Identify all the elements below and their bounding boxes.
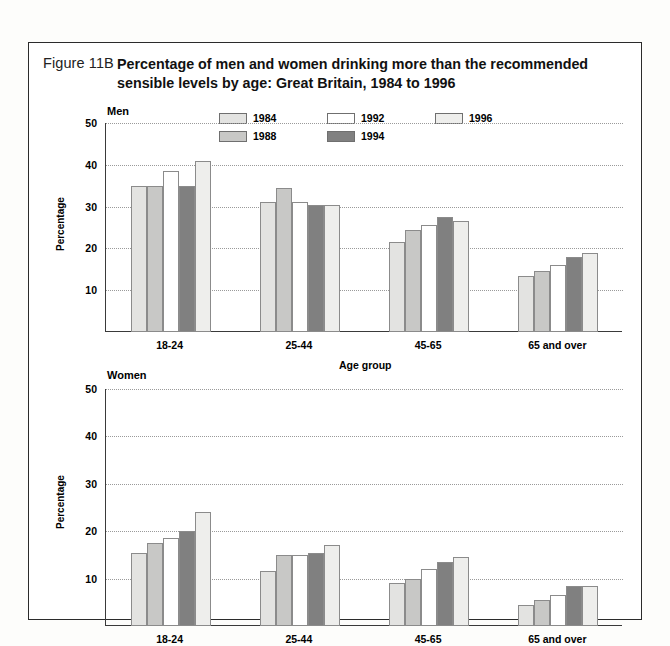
gridline-40 [106, 165, 623, 166]
bar [147, 186, 163, 332]
bar [324, 545, 340, 626]
bar [566, 586, 582, 626]
x-tick-label-45-65: 45-65 [383, 633, 473, 645]
bar [421, 225, 437, 332]
gridline-40 [106, 436, 623, 437]
x-tick-label-65-and-over: 65 and over [512, 633, 602, 645]
figure-number: Figure 11B [43, 55, 114, 71]
panel-title-men: Men [107, 105, 129, 117]
x-tick-label-18-24: 18-24 [125, 339, 215, 351]
bar [534, 271, 550, 332]
y-tick-label-40: 40 [71, 430, 97, 442]
bar [421, 569, 437, 626]
bar [260, 202, 276, 332]
bar [453, 221, 469, 332]
x-tick-label-45-65: 45-65 [383, 339, 473, 351]
bar [582, 253, 598, 332]
bar [308, 205, 324, 332]
bar [195, 512, 211, 626]
bar [566, 257, 582, 332]
x-tick-label-65-and-over: 65 and over [512, 339, 602, 351]
y-tick-label-30: 30 [71, 201, 97, 213]
bar [405, 230, 421, 332]
bar [453, 557, 469, 626]
gridline-50 [106, 389, 623, 390]
panel-title-women: Women [107, 369, 147, 381]
y-axis-title-men: Percentage [55, 197, 66, 251]
bar [389, 242, 405, 332]
bar [405, 579, 421, 626]
y-tick-label-50: 50 [71, 117, 97, 129]
bar [324, 205, 340, 332]
y-tick-label-20: 20 [71, 242, 97, 254]
chart-panel-women: Women Percentage Age group 102030405018-… [29, 361, 641, 619]
gridline-50 [106, 123, 623, 124]
figure-frame: Figure 11B Percentage of men and women d… [28, 42, 642, 620]
bar [437, 217, 453, 332]
bar [308, 553, 324, 626]
bar [437, 562, 453, 626]
bar [518, 276, 534, 332]
bar [195, 161, 211, 332]
y-tick-label-50: 50 [71, 383, 97, 395]
bar [389, 583, 405, 626]
y-tick-label-10: 10 [71, 284, 97, 296]
gridline-30 [106, 484, 623, 485]
page-title: Percentage of men and women drinking mor… [117, 55, 629, 93]
x-tick-label-25-44: 25-44 [254, 633, 344, 645]
y-axis-title-women: Percentage [55, 475, 66, 529]
chart-panel-men: Men Percentage Age group 102030405018-24… [29, 101, 641, 391]
bar [260, 571, 276, 626]
bar [179, 531, 195, 626]
plot-area-men [105, 123, 622, 332]
bar [276, 555, 292, 626]
x-tick-label-18-24: 18-24 [125, 633, 215, 645]
y-tick-label-10: 10 [71, 573, 97, 585]
bar [179, 186, 195, 332]
y-tick-label-30: 30 [71, 478, 97, 490]
bar [276, 188, 292, 332]
bar [582, 586, 598, 626]
bar [550, 265, 566, 332]
y-tick-label-20: 20 [71, 525, 97, 537]
plot-area-women [105, 389, 622, 626]
bar [131, 553, 147, 626]
bar [518, 605, 534, 626]
figure-page: Figure 11B Percentage of men and women d… [0, 0, 670, 646]
bar [534, 600, 550, 626]
y-tick-label-40: 40 [71, 159, 97, 171]
bar [163, 538, 179, 626]
bar [131, 186, 147, 332]
bar [147, 543, 163, 626]
bar [292, 202, 308, 332]
x-tick-label-25-44: 25-44 [254, 339, 344, 351]
bar [550, 595, 566, 626]
bar [292, 555, 308, 626]
bar [163, 171, 179, 332]
